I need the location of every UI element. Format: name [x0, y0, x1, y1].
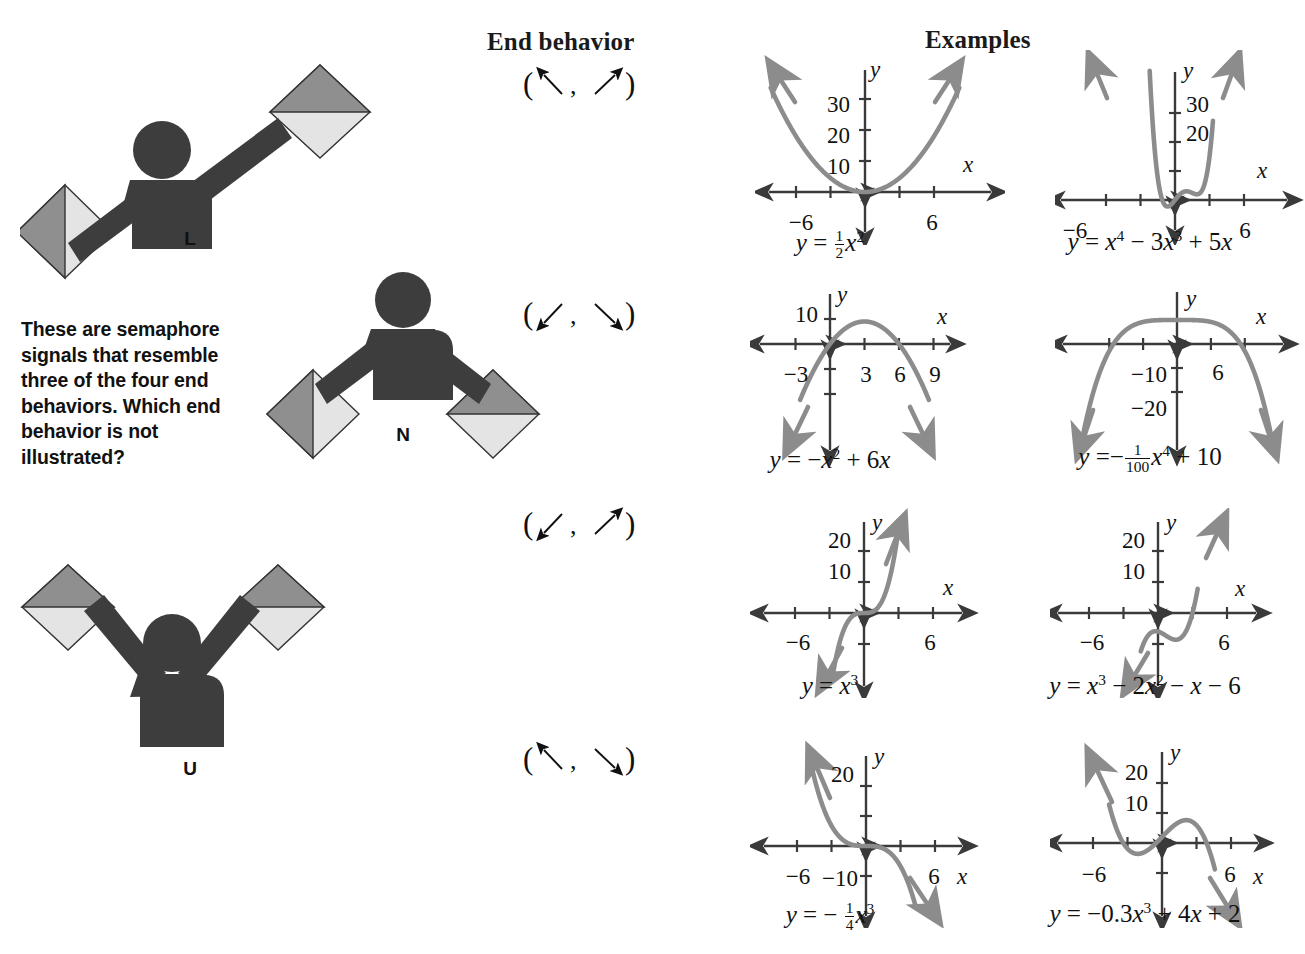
semaphore-u-svg	[20, 555, 340, 785]
semaphore-label-n: N	[383, 424, 423, 446]
end-behavior-notation-4: ( , )	[519, 737, 649, 781]
x-tick-6: 6	[928, 864, 940, 889]
graph-4: −10−206yx	[1055, 282, 1305, 512]
figure-body	[84, 595, 260, 747]
y-tick-20: 20	[1125, 760, 1148, 785]
equation-6: y = x3 − 2x2 − x − 6	[995, 672, 1295, 700]
graph-3: 10−3369yx	[750, 282, 1000, 512]
y-tick-10: 10	[1125, 791, 1148, 816]
semaphore-figure-l	[20, 50, 380, 294]
svg-text:): )	[625, 506, 635, 541]
y-tick-20: 20	[1186, 121, 1209, 146]
x-tick-3: 3	[860, 362, 872, 387]
axes	[1162, 752, 1258, 843]
y-tick-20: 20	[831, 762, 854, 787]
svg-text:): )	[625, 66, 635, 101]
y-axis-label: y	[1184, 286, 1197, 311]
graph-svg: 3020−66yx	[1055, 50, 1305, 245]
y-tick-10: 10	[827, 154, 850, 179]
graph-svg: −10−206yx	[1055, 282, 1305, 467]
graph-svg: 2010−66yx	[1050, 508, 1305, 698]
svg-text:,: ,	[570, 71, 577, 100]
y-axis-label: y	[870, 510, 883, 535]
y-tick-20: 20	[1122, 528, 1145, 553]
notation-arrows-3: ( , )	[519, 502, 649, 546]
prompt-text: These are semaphore signals that resembl…	[21, 317, 236, 471]
curve	[1141, 589, 1198, 652]
figure-body	[315, 272, 491, 404]
x-tick-neg6: −6	[786, 630, 810, 655]
x-tick-6: 6	[894, 362, 906, 387]
end-behavior-notation-2: ( , )	[519, 292, 649, 336]
y-tick-neg10: −10	[1131, 362, 1167, 387]
x-axis-label: x	[1234, 576, 1246, 601]
svg-text:,: ,	[570, 746, 577, 775]
x-tick-neg6: −6	[1080, 630, 1104, 655]
x-axis-label: x	[962, 152, 974, 177]
y-axis-label: y	[1168, 740, 1181, 765]
graph-5: 2010−66yx	[750, 508, 1000, 738]
x-tick-6: 6	[1218, 630, 1230, 655]
x-tick-neg3: −3	[784, 362, 808, 387]
y-tick-20: 20	[827, 123, 850, 148]
y-tick-neg10: −10	[822, 866, 858, 891]
x-axis-label: x	[1255, 304, 1267, 329]
graph-svg: 10−3369yx	[750, 282, 1005, 467]
semaphore-label-u: U	[170, 758, 210, 780]
x-axis-label: x	[942, 575, 954, 600]
svg-text:): )	[625, 296, 635, 331]
svg-text:(: (	[523, 66, 533, 101]
x-tick-9: 9	[929, 362, 941, 387]
column-header-end-behavior: End behavior	[487, 28, 635, 56]
curve	[800, 322, 929, 400]
y-tick-10: 10	[795, 302, 818, 327]
equation-7: y = − 14x3	[680, 900, 980, 933]
x-axis-label: x	[1256, 158, 1268, 183]
x-tick-6: 6	[1212, 360, 1224, 385]
graph-svg: 302010−66yx	[755, 50, 1005, 245]
notation-arrows-4: ( , )	[519, 737, 649, 781]
svg-text:,: ,	[570, 301, 577, 330]
svg-text:(: (	[523, 741, 533, 776]
semaphore-l-svg	[20, 50, 380, 290]
equation-3: y = −x2 + 6x	[680, 446, 980, 474]
y-tick-10: 10	[1122, 559, 1145, 584]
svg-text:(: (	[523, 506, 533, 541]
x-axis-label: x	[1252, 864, 1264, 889]
y-tick-10: 10	[828, 559, 851, 584]
semaphore-figure-u	[20, 555, 340, 789]
equation-8: y = −0.3x3 + 4x + 2	[995, 900, 1295, 928]
y-tick-neg20: −20	[1131, 396, 1167, 421]
x-tick-6: 6	[1224, 862, 1236, 887]
y-axis-label: y	[872, 744, 885, 769]
x-tick-neg6: −6	[1082, 862, 1106, 887]
flag-upper-right	[270, 65, 370, 158]
y-tick-30: 30	[1186, 92, 1209, 117]
axes	[866, 756, 962, 846]
y-axis-label: y	[1164, 510, 1177, 535]
y-tick-30: 30	[827, 92, 850, 117]
graph-6: 2010−66yx	[1050, 508, 1300, 738]
equation-4: y =−1100x4 + 10	[1000, 442, 1300, 475]
equation-5: y = x3	[680, 672, 980, 700]
y-axis-label: y	[868, 57, 881, 82]
equation-1: y = 12x2	[680, 228, 980, 261]
end-behavior-notation-3: ( , )	[519, 502, 649, 546]
svg-text:): )	[625, 741, 635, 776]
x-tick-6: 6	[924, 630, 936, 655]
notation-arrows-1: ( , )	[519, 62, 649, 106]
end-behavior-notation-1: ( , )	[519, 62, 649, 106]
svg-text:(: (	[523, 296, 533, 331]
x-tick-neg6: −6	[786, 864, 810, 889]
equation-2: y = x4 − 3x3 + 5x	[1000, 228, 1300, 256]
notation-arrows-2: ( , )	[519, 292, 649, 336]
semaphore-label-l: L	[170, 228, 210, 250]
svg-text:,: ,	[570, 511, 577, 540]
y-axis-label: y	[835, 282, 848, 307]
y-axis-label: y	[1181, 58, 1194, 83]
y-tick-20: 20	[828, 528, 851, 553]
x-axis-label: x	[956, 864, 968, 889]
x-axis-label: x	[936, 304, 948, 329]
graph-svg: 2010−66yx	[750, 508, 1005, 698]
